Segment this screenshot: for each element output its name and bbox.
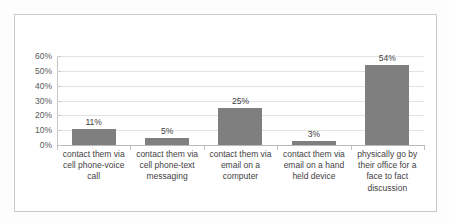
x-axis-category-line: messaging [131,171,202,182]
x-axis-line [57,145,425,146]
bar-group: 54% [351,56,424,145]
y-axis-tick [58,115,61,116]
y-axis-tick-label: 20% [16,111,52,120]
x-axis-tick [204,146,205,150]
bar-value-label: 3% [308,129,320,139]
y-axis-labels: 0%10%20%30%40%50%60% [15,15,55,155]
x-axis-category-line: call [58,171,129,182]
bar[interactable] [145,138,189,145]
x-axis-category-label: contact them viacell phone-textmessaging [130,149,203,183]
bar-group: 5% [130,56,203,145]
bar[interactable] [365,65,409,145]
x-axis-tick [351,146,352,150]
x-axis-category-line: computer [205,171,276,182]
x-axis-category-line: discussion [352,183,423,194]
x-axis-category-line: contact them via [205,149,276,160]
x-axis-category-line: email on a hand [278,160,349,171]
y-axis-tick [58,71,61,72]
bar-value-label: 11% [85,117,101,127]
bar-group: 11% [57,56,130,145]
x-axis-category-line: their office for a [352,160,423,171]
y-axis-tick-label: 10% [16,126,52,135]
x-axis-tick [130,146,131,150]
y-axis-tick [58,145,61,146]
x-axis-labels: contact them viacell phone-voicecallcont… [57,149,425,211]
y-axis-tick [58,130,61,131]
y-axis-tick [58,101,61,102]
x-axis-category-line: face to fact [352,171,423,182]
x-axis-category-label: physically go bytheir office for aface t… [351,149,424,194]
x-axis-category-label: contact them viaemail on a handheld devi… [277,149,350,183]
y-axis-tick-label: 60% [16,52,52,61]
bar-value-label: 54% [379,53,396,63]
y-axis-tick-label: 0% [16,141,52,150]
x-axis-category-line: cell phone-voice [58,160,129,171]
plot-area: 11%5%25%3%54% [57,56,424,145]
bar-group: 25% [204,56,277,145]
x-axis-tick [277,146,278,150]
bar-value-label: 5% [161,126,173,136]
x-axis-category-label: contact them viacell phone-voicecall [57,149,130,183]
y-axis-tick [58,86,61,87]
x-axis-tick [424,146,425,150]
y-axis-tick-label: 30% [16,96,52,105]
x-axis-category-line: held device [278,171,349,182]
x-axis-category-label: contact them viaemail on acomputer [204,149,277,183]
chart-figure: 0%10%20%30%40%50%60% 11%5%25%3%54% conta… [0,0,449,224]
x-axis-category-line: cell phone-text [131,160,202,171]
x-axis-category-line: email on a [205,160,276,171]
y-axis-tick-label: 40% [16,81,52,90]
x-axis-tick [57,146,58,150]
x-axis-category-line: contact them via [58,149,129,160]
bar[interactable] [72,129,116,145]
x-axis-category-line: contact them via [131,149,202,160]
chart-frame: 0%10%20%30%40%50%60% 11%5%25%3%54% conta… [14,14,437,212]
y-axis-tick [58,56,61,57]
bar-value-label: 25% [232,96,249,106]
bar-group: 3% [277,56,350,145]
y-axis-tick-label: 50% [16,66,52,75]
bar[interactable] [218,108,262,145]
x-axis-category-line: contact them via [278,149,349,160]
x-axis-category-line: physically go by [352,149,423,160]
